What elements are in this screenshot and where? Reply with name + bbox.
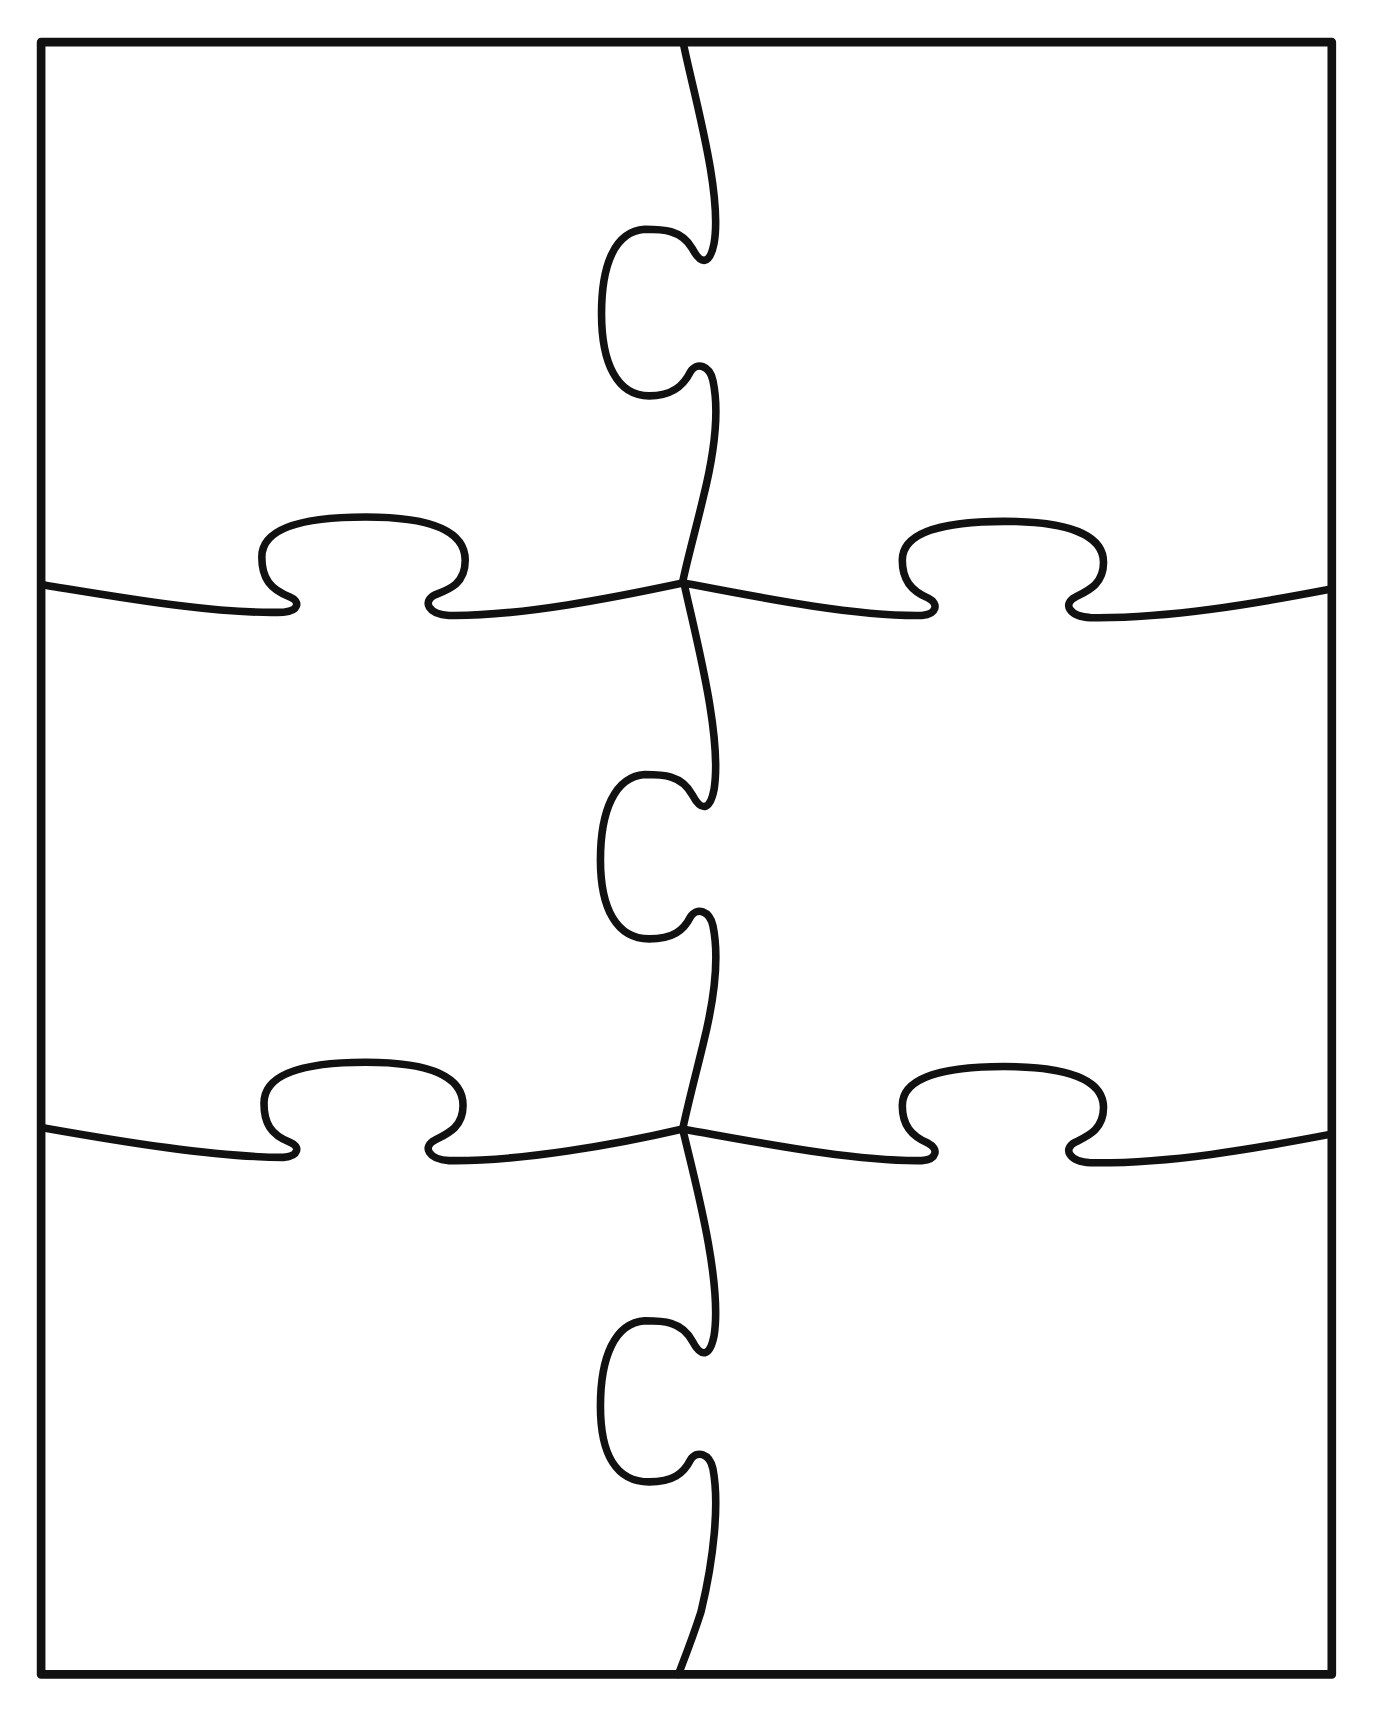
jigsaw-puzzle-template xyxy=(0,0,1374,1709)
horizontal-seam-2-right xyxy=(684,1067,1329,1163)
horizontal-seam-1-right xyxy=(684,521,1329,617)
puzzle-outer-frame xyxy=(41,42,1332,1674)
vertical-seam-row1 xyxy=(602,45,716,581)
vertical-seam-row2 xyxy=(600,582,715,1129)
horizontal-seam-2-left xyxy=(45,1062,681,1160)
vertical-seam-row3 xyxy=(600,1129,715,1674)
horizontal-seam-1-left xyxy=(45,517,682,615)
